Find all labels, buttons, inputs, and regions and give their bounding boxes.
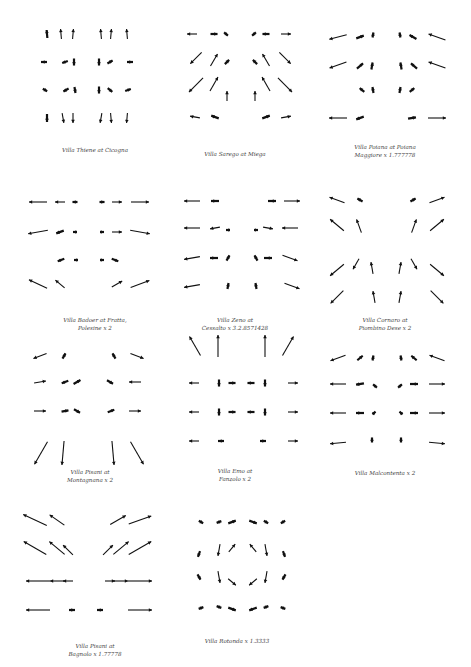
arrow-icon [190, 52, 201, 63]
arrow-icon [74, 409, 80, 413]
arrow-icon [281, 32, 291, 36]
arrow-icon [211, 115, 219, 118]
arrow-icon [100, 230, 104, 234]
arrow-icon [62, 60, 68, 63]
arrow-icon [112, 441, 116, 465]
arrow-icon [26, 608, 50, 612]
arrow-icon [28, 230, 48, 235]
arrow-icon [408, 116, 416, 120]
arrow-icon [398, 384, 402, 387]
arrow-icon [63, 579, 73, 583]
arrow-icon [398, 33, 402, 38]
arrow-icon [29, 200, 47, 204]
arrow-icon [370, 63, 374, 70]
arrow-icon [253, 60, 257, 64]
arrow-icon [410, 35, 417, 39]
arrow-icon [109, 29, 113, 39]
arrow-icon [263, 227, 273, 231]
arrow-icon [197, 574, 200, 579]
arrow-icon [264, 571, 268, 583]
arrow-icon [62, 409, 69, 413]
arrow-icon [24, 542, 47, 555]
arrow-icon [41, 60, 47, 64]
arrow-icon [429, 411, 445, 415]
arrow-icon [73, 230, 77, 234]
arrow-icon [55, 280, 64, 288]
panel-caption: Villa Cornaro at Piombino Dese x 2 [310, 316, 460, 332]
arrow-icon [131, 442, 144, 465]
arrow-icon [189, 410, 199, 414]
arrow-icon [197, 551, 200, 557]
panel-pisani-b [23, 514, 152, 612]
arrow-icon [217, 409, 221, 416]
arrow-icon [99, 29, 103, 39]
arrow-icon [283, 574, 286, 579]
arrow-icon [410, 88, 415, 92]
arrow-icon [100, 200, 105, 204]
panel-caption: Villa Sarego at Miega [160, 150, 310, 158]
arrow-icon [399, 262, 403, 274]
arrow-icon [73, 87, 77, 93]
arrow-icon [72, 59, 76, 66]
panel-badoer [28, 200, 150, 288]
arrow-icon [125, 88, 131, 91]
arrow-icon [262, 115, 270, 118]
arrow-icon [113, 542, 128, 555]
arrow-icon [330, 264, 344, 276]
arrow-icon [263, 32, 270, 36]
arrow-icon [50, 579, 64, 583]
arrow-icon [127, 60, 133, 64]
arrow-icon [264, 256, 272, 260]
arrow-icon [190, 336, 201, 355]
arrow-icon [59, 29, 63, 39]
arrow-icon [73, 200, 78, 204]
arrow-icon [109, 113, 113, 123]
arrow-icon [412, 219, 417, 232]
arrow-icon [282, 255, 297, 261]
arrow-icon [100, 258, 104, 262]
arrow-icon [45, 30, 49, 38]
panel-caption: Villa Pisani at Montagnana x 2 [15, 468, 165, 484]
arrow-icon [62, 113, 66, 123]
arrow-icon [29, 279, 47, 288]
panel-sarego [187, 32, 292, 118]
arrow-icon [26, 579, 50, 583]
arrow-icon [284, 199, 300, 203]
arrow-icon [263, 380, 267, 387]
arrow-icon [283, 336, 294, 355]
arrow-icon [226, 283, 230, 289]
arrow-icon [250, 544, 256, 552]
arrow-icon [199, 607, 204, 610]
arrow-icon [105, 579, 115, 583]
arrow-icon [252, 32, 256, 35]
arrow-icon [411, 356, 416, 360]
arrow-icon [125, 29, 129, 39]
arrow-icon [229, 410, 236, 414]
arrow-icon [211, 32, 218, 36]
arrow-icon [353, 259, 359, 269]
arrow-icon [356, 117, 364, 120]
arrow-icon [184, 226, 200, 230]
arrow-icon [371, 87, 375, 93]
arrow-icon [131, 280, 150, 287]
arrow-icon [110, 516, 126, 525]
arrow-icon [372, 291, 376, 303]
arrow-icon [282, 226, 298, 230]
arrow-icon [23, 514, 47, 525]
arrow-icon [370, 262, 374, 274]
arrow-icon [112, 200, 122, 204]
arrow-icon [225, 60, 229, 64]
arrow-icon [69, 608, 75, 612]
arrow-icon [371, 356, 375, 361]
arrow-icon [264, 520, 268, 523]
arrow-icon [254, 283, 258, 289]
arrow-icon [63, 88, 68, 91]
arrow-icon [189, 439, 199, 443]
arrow-icon [128, 608, 152, 612]
arrow-icon [218, 439, 224, 443]
arrow-icon [249, 608, 257, 611]
arrow-icon [356, 411, 364, 415]
arrow-icon [129, 409, 141, 413]
arrow-icon [99, 113, 103, 123]
arrow-icon [125, 113, 129, 123]
